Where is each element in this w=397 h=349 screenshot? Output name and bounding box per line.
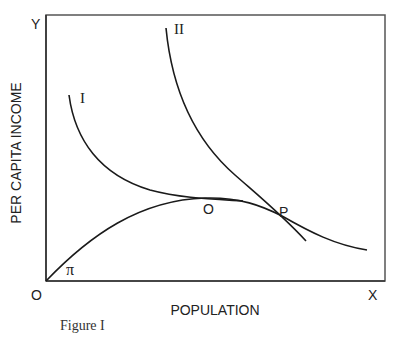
- point-P-label: P: [279, 204, 288, 220]
- point-O-label: O: [203, 201, 214, 217]
- y-axis-title: PER CAPITA INCOME: [8, 82, 24, 223]
- origin-label: O: [31, 287, 42, 303]
- diagram-canvas: Y X X O PER CAPITA INCOME POPULATION I I…: [0, 0, 397, 349]
- x-axis-title: POPULATION: [170, 302, 259, 318]
- figure-caption: Figure I: [60, 318, 105, 334]
- curve-pi-label: π: [66, 261, 74, 278]
- curve-I: [69, 95, 243, 201]
- curve-II-label: II: [174, 21, 184, 37]
- x-axis-end-label-visible: X: [368, 287, 378, 303]
- y-axis-end-label: Y: [31, 16, 41, 32]
- curve-I-label: I: [80, 90, 85, 106]
